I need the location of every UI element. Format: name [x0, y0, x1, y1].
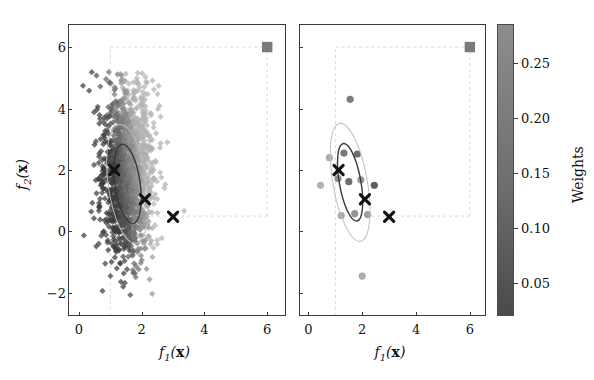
colorbar-tick-label: 0.10 [521, 220, 550, 235]
solution-point [326, 154, 333, 161]
solution-point [345, 178, 352, 185]
solution-point [351, 210, 358, 217]
tick-mark [142, 312, 143, 316]
x-tick-label: 6 [263, 322, 271, 337]
x-tick-label: 6 [466, 322, 474, 337]
solution-point [340, 149, 347, 156]
y-tick-label: 2 [46, 163, 66, 178]
solution-point [347, 96, 354, 103]
x-tick-label: 2 [358, 322, 366, 337]
tick-mark [267, 312, 268, 316]
x-marker [385, 212, 394, 221]
solution-point [359, 272, 366, 279]
tick-mark [79, 312, 80, 316]
reference-point-marker [465, 42, 475, 52]
tick-mark [299, 170, 303, 171]
tick-mark [68, 109, 72, 110]
x-tick-label: 0 [304, 322, 312, 337]
x-tick-label: 0 [75, 322, 83, 337]
colorbar-tick-label: 0.20 [521, 110, 550, 125]
tick-mark [299, 231, 303, 232]
colorbar-title: Weights [570, 146, 586, 203]
tick-mark [514, 118, 518, 119]
tick-mark [68, 293, 72, 294]
tick-mark [299, 47, 303, 48]
colorbar-tick-label: 0.05 [521, 275, 550, 290]
tick-mark [362, 312, 363, 316]
y-axis-title: f2(x) [14, 159, 33, 190]
tick-mark [514, 283, 518, 284]
tick-mark [299, 109, 303, 110]
colorbar-tick-label: 0.25 [521, 55, 550, 70]
x-tick-label: 2 [138, 322, 146, 337]
x-axis-title: f1(x) [375, 344, 406, 363]
tick-mark [308, 312, 309, 316]
solution-point [317, 182, 324, 189]
tick-mark [68, 231, 72, 232]
x-axis-title: f1(x) [159, 344, 190, 363]
y-tick-label: −2 [46, 285, 66, 300]
tick-mark [68, 170, 72, 171]
tick-mark [299, 293, 303, 294]
tick-mark [514, 63, 518, 64]
y-tick-label: 6 [46, 40, 66, 55]
y-tick-label: 4 [46, 101, 66, 116]
y-tick-label: 0 [46, 224, 66, 239]
tick-mark [68, 47, 72, 48]
x-tick-label: 4 [200, 322, 208, 337]
tick-mark [204, 312, 205, 316]
tick-mark [514, 228, 518, 229]
tick-mark [470, 312, 471, 316]
solution-point [371, 182, 378, 189]
x-marker [360, 195, 369, 204]
tick-mark [416, 312, 417, 316]
x-tick-label: 4 [412, 322, 420, 337]
right-canvas [0, 0, 594, 380]
colorbar-tick-label: 0.15 [521, 165, 550, 180]
figure-root: 0246−20246f1(x)0246f1(x)f2(x)0.050.100.1… [0, 0, 594, 380]
tick-mark [514, 173, 518, 174]
